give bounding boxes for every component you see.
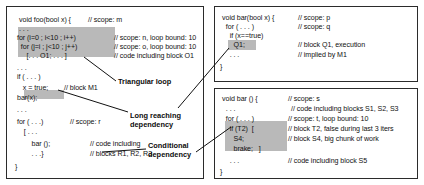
foo-line-12-comment: // code including: [90, 140, 140, 148]
foo-line-7-comment: // block M1: [64, 84, 98, 92]
foo-line-3-comment: // scope: o, loop bound: 10: [114, 43, 196, 51]
bars-line-1-comment: // code including blocks S1, S2, S3: [291, 105, 398, 113]
foo-line-10-comment: // scope: r: [70, 118, 101, 126]
barq-line-3-comment: // block Q1, execution: [298, 41, 365, 49]
barq-line-2-code: if (x==true): [222, 32, 263, 40]
bars-line-0-code: void bar () {: [222, 95, 258, 103]
annotation-conditional-dependency: Conditional dependency: [148, 141, 191, 159]
bars-line-4-comment: // block S4, big chunk of work: [288, 135, 379, 143]
annotation-long-reaching-dependency: Long reaching dependency: [130, 111, 181, 129]
foo-line-13-code: . . .}: [20, 150, 43, 158]
annotation-triangular-loop: Triangular loop: [118, 77, 171, 86]
foo-line-4-comment: // code including block O1: [114, 52, 194, 60]
foo-line-11-code: [ . . .: [20, 128, 37, 136]
foo-line-9-code: . . .: [17, 106, 27, 114]
barq-line-4-code: . . .: [222, 51, 239, 59]
bars-line-3-comment: // block T2, false during last 3 iters: [288, 125, 394, 133]
barq-line-1-code: for ( . . . ): [222, 23, 254, 31]
bars-line-0-comment: // scope: s: [288, 95, 320, 103]
code-annotation-figure: void foo(bool x) { // scope: m . . . for…: [0, 0, 424, 185]
foo-line-5-code: . . .: [17, 64, 27, 72]
foo-line-2-code: for (i=0 ; i<10 ; i++): [17, 34, 76, 42]
barq-line-5-code: }: [220, 63, 222, 71]
barq-line-0-comment: // scope: p: [298, 14, 330, 22]
foo-line-3-code: for (j=i ; j<10 ; j++): [17, 43, 77, 51]
foo-line-0-comment: // scope: m: [88, 16, 122, 24]
bars-line-6-comment: // code including block S5: [288, 157, 367, 165]
bars-line-2-comment: // scope: t, loop bound: 10: [288, 115, 368, 123]
bars-line-5-code: brake; ]: [222, 145, 261, 153]
foo-line-10-code: for ( . . .): [17, 118, 43, 126]
foo-line-13-comment: // blocks R1, R2, R3: [90, 150, 152, 158]
foo-line-0-code: void foo(bool x) {: [19, 16, 71, 24]
foo-line-6-code: if ( . . . ): [17, 73, 40, 81]
foo-line-2-comment: // scope: n, loop bound: 10: [114, 34, 196, 42]
foo-line-7-code: x = true;: [19, 84, 48, 92]
bars-line-1-code: . . .: [222, 105, 235, 113]
foo-line-12-code: bar ();: [20, 140, 50, 148]
bars-line-4-code: S4;: [222, 135, 244, 143]
barq-line-1-comment: // scope: q: [298, 23, 330, 31]
bars-line-7-code: }: [220, 168, 222, 176]
bars-line-2-code: for ( . . . ): [222, 115, 254, 123]
foo-line-8-code: bar(x);: [17, 94, 37, 102]
barq-line-0-code: void bar(bool x) {: [222, 14, 274, 22]
barq-line-4-comment: // implied by M1: [298, 51, 347, 59]
foo-line-1-code: . . .: [19, 25, 29, 33]
bars-line-3-code: if (T2) [: [222, 125, 254, 133]
foo-line-14-code: }: [15, 163, 17, 171]
barq-line-3-code: Q1;: [222, 41, 245, 49]
bars-line-6-code: . . .: [222, 157, 239, 165]
foo-line-4-code: [. . . O1; . . . ]: [17, 52, 67, 60]
